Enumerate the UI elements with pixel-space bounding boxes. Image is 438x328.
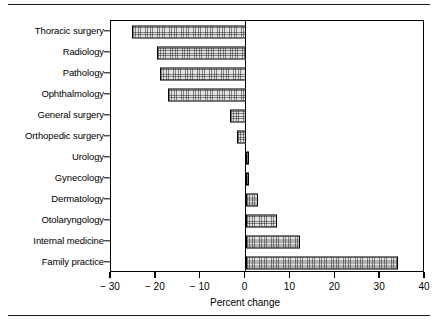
value-tick-label: 30: [374, 281, 385, 292]
value-tick-label: − 20: [145, 281, 165, 292]
value-tick-mark: [109, 272, 110, 278]
category-label: Urology: [72, 152, 104, 162]
category-label: Thoracic surgery: [35, 26, 104, 36]
bar: [157, 46, 246, 59]
plot-area: [110, 20, 424, 272]
x-axis-title: Percent change: [0, 297, 438, 308]
bar: [230, 109, 245, 122]
bar: [168, 88, 245, 101]
value-tick-mark: [334, 272, 335, 278]
value-tick-mark: [378, 272, 379, 278]
category-label: Internal medicine: [33, 236, 104, 246]
value-tick-mark: [289, 272, 290, 278]
category-axis-labels: Thoracic surgeryRadiologyPathologyOphtha…: [0, 20, 104, 272]
bar: [246, 256, 399, 269]
category-label: Otolaryngology: [42, 215, 105, 225]
category-label: Radiology: [63, 47, 104, 57]
bar: [246, 172, 250, 185]
value-tick-label: 20: [329, 281, 340, 292]
bar: [246, 214, 277, 227]
x-axis-title-text: Percent change: [210, 297, 280, 308]
value-tick-label: − 10: [190, 281, 210, 292]
top-horizontal-rule: [8, 4, 430, 5]
category-label: General surgery: [37, 110, 104, 120]
category-label: Pathology: [63, 68, 104, 78]
value-tick-mark: [199, 272, 200, 278]
value-tick-label: 40: [418, 281, 429, 292]
chart-figure: Thoracic surgeryRadiologyPathologyOphtha…: [0, 0, 438, 328]
bar: [246, 235, 301, 248]
bar: [246, 151, 249, 164]
category-label: Dermatology: [51, 194, 104, 204]
category-label: Ophthalmology: [41, 89, 104, 99]
bar: [237, 130, 246, 143]
value-tick-label: − 30: [100, 281, 120, 292]
category-label: Gynecology: [55, 173, 104, 183]
bar: [246, 193, 259, 206]
bottom-horizontal-rule: [8, 315, 430, 316]
category-label: Orthopedic surgery: [25, 131, 104, 141]
category-label: Family practice: [42, 257, 104, 267]
value-tick-label: 0: [242, 281, 248, 292]
bar: [160, 67, 245, 80]
value-tick-mark: [423, 272, 424, 278]
value-tick-mark: [154, 272, 155, 278]
value-tick-label: 10: [284, 281, 295, 292]
value-tick-mark: [244, 272, 245, 278]
bar: [132, 25, 245, 38]
